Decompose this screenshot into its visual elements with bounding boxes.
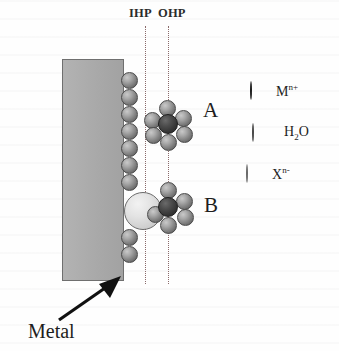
cluster-b-water-molecule <box>160 217 177 234</box>
anion-sphere-icon <box>246 165 248 183</box>
legend-item-water: H2O <box>252 124 309 142</box>
cluster-b-label: B <box>204 193 218 218</box>
cluster-b-water-molecule <box>176 193 193 210</box>
surface-water-molecule <box>121 246 138 263</box>
ohp-plane-line <box>168 26 169 284</box>
ihp-plane-line <box>145 26 146 284</box>
ohp-plane-label: OHP <box>158 6 186 21</box>
surface-water-molecule <box>121 157 138 174</box>
metal-electrode-slab <box>62 59 124 281</box>
legend-item-anion: Xn- <box>246 165 290 183</box>
surface-water-molecule <box>121 89 138 106</box>
legend-label-anion: Xn- <box>272 165 290 183</box>
surface-water-molecule <box>121 123 138 140</box>
legend-item-cation: Mn+ <box>250 82 298 100</box>
water-subscript: 2 <box>294 132 299 142</box>
cluster-a-water-molecule <box>160 134 177 151</box>
double-layer-figure: IHP OHP A B Metal Mn+ <box>0 0 339 351</box>
cation-sphere-icon <box>250 82 252 100</box>
anion-charge-superscript: n- <box>282 165 290 175</box>
cluster-a-label: A <box>203 98 218 123</box>
ihp-plane-label: IHP <box>129 6 152 21</box>
cluster-a-water-molecule <box>176 126 193 143</box>
surface-water-molecule <box>121 229 138 246</box>
water-sphere-icon <box>252 124 254 142</box>
metal-label: Metal <box>28 320 75 343</box>
surface-water-molecule <box>121 72 138 89</box>
cation-charge-superscript: n+ <box>288 82 298 92</box>
surface-water-molecule <box>121 174 138 191</box>
legend-label-cation: Mn+ <box>276 82 298 100</box>
cluster-b-water-molecule <box>177 209 194 226</box>
surface-water-molecule <box>121 140 138 157</box>
legend-label-water: H2O <box>284 124 309 142</box>
cluster-b-metal-cation <box>158 197 178 217</box>
cluster-a-metal-cation <box>158 114 178 134</box>
surface-water-molecule <box>121 106 138 123</box>
metal-pointer-arrow <box>55 276 127 324</box>
